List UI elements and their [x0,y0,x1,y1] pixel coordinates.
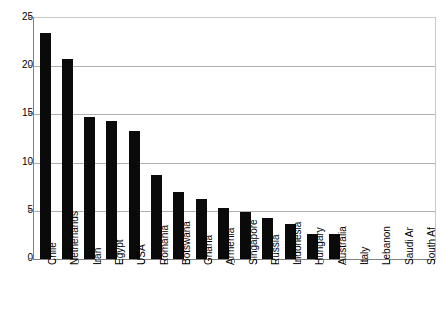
x-axis: ChileNetherlandsIranEgyptUSARomaniaBotsw… [33,259,435,324]
x-tick-label: Saudi Ar [405,227,415,265]
x-tick-label: USA [137,244,147,265]
x-tick-label: Ghana [204,235,214,265]
x-tick-label: Romania [160,225,170,265]
bar [84,117,95,259]
bar [129,131,140,259]
x-tick-label: Botswana [182,221,192,265]
x-tick-label: Russia [271,234,281,265]
y-tick-mark [28,210,32,211]
bar-chart: 0510152025 ChileNetherlandsIranEgyptUSAR… [0,0,446,324]
y-axis: 0510152025 [0,0,33,275]
x-tick-label: Australia [338,226,348,265]
y-tick-mark [28,113,32,114]
y-tick-mark [28,65,32,66]
bar [40,33,51,259]
x-tick-label: Lebanon [382,226,392,265]
x-tick-label: Singapore [249,219,259,265]
x-tick-label: Italy [360,247,370,265]
y-tick-mark [28,17,32,18]
x-tick-label: Egypt [115,239,125,265]
x-tick-label: Indonesia [293,222,303,265]
y-tick-mark [28,258,32,259]
bars-layer [34,18,435,259]
y-tick-mark [28,162,32,163]
plot-area [33,17,436,260]
x-tick-label: Chile [48,242,58,265]
x-tick-label: Hungary [315,227,325,265]
x-tick-label: Netherlands [70,211,80,265]
x-tick-label: Armenia [226,228,236,265]
x-tick-label: South Af [427,227,437,265]
x-tick-label: Iran [93,248,103,265]
